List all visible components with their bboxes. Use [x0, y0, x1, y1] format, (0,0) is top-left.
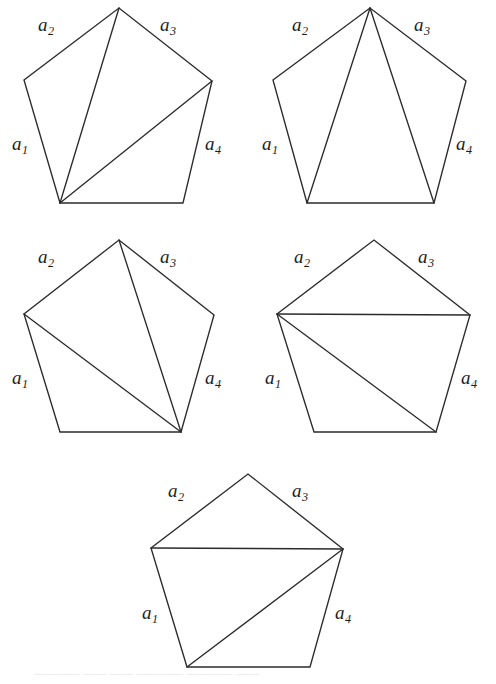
side-label-base: a — [205, 367, 215, 388]
side-label-base: a — [294, 246, 304, 267]
pentagon-3: a1a2a3a4 — [0, 229, 248, 458]
side-label-subscript: 2 — [302, 24, 308, 38]
side-label-subscript: 3 — [170, 24, 176, 38]
bottom-caption-text: ———— —— —— ———— ———— —— — [34, 670, 260, 679]
side-label-base: a — [262, 133, 272, 154]
side-label-subscript: 3 — [424, 24, 430, 38]
diagonal-1-top-to-bottom_left — [307, 8, 370, 203]
side-label-subscript: 4 — [471, 377, 477, 391]
side-label-subscript: 1 — [22, 377, 28, 391]
side-label-base: a — [414, 14, 424, 35]
side-label-base: a — [160, 246, 170, 267]
side-label-base: a — [160, 14, 170, 35]
side-label-base: a — [142, 602, 152, 623]
side-label-subscript: 4 — [345, 612, 351, 626]
side-label-subscript: 3 — [428, 256, 434, 270]
pentagon-2-outline — [248, 0, 496, 229]
side-label-base: a — [12, 367, 22, 388]
side-label-a1: a1 — [262, 134, 278, 153]
side-label-a1: a1 — [142, 603, 158, 622]
side-label-a2: a2 — [168, 481, 184, 500]
side-label-subscript: 1 — [275, 377, 281, 391]
side-label-a2: a2 — [38, 15, 54, 34]
side-label-base: a — [292, 14, 302, 35]
side-label-a4: a4 — [205, 134, 221, 153]
pentagon-4: a1a2a3a4 — [248, 229, 496, 458]
side-label-a3: a3 — [160, 247, 176, 266]
side-label-a4: a4 — [335, 603, 351, 622]
pentagon-5-outline — [124, 455, 372, 684]
side-label-subscript: 3 — [302, 490, 308, 504]
side-label-a4: a4 — [456, 134, 472, 153]
diagonal-2-bottom_right-to-left — [24, 314, 181, 432]
side-label-a4: a4 — [205, 368, 221, 387]
side-label-base: a — [335, 602, 345, 623]
side-label-a2: a2 — [294, 247, 310, 266]
side-label-a2: a2 — [292, 15, 308, 34]
side-label-subscript: 1 — [22, 143, 28, 157]
side-label-a1: a1 — [12, 368, 28, 387]
pentagon-4-outline — [248, 229, 496, 458]
side-label-subscript: 1 — [272, 143, 278, 157]
side-label-base: a — [38, 14, 48, 35]
side-label-a2: a2 — [38, 247, 54, 266]
side-label-subscript: 1 — [152, 612, 158, 626]
side-label-subscript: 2 — [48, 24, 54, 38]
side-label-base: a — [38, 246, 48, 267]
side-label-subscript: 2 — [304, 256, 310, 270]
pentagon-5: a1a2a3a4 — [124, 455, 372, 684]
side-label-base: a — [205, 133, 215, 154]
side-label-a3: a3 — [292, 481, 308, 500]
side-label-base: a — [168, 480, 178, 501]
side-label-subscript: 2 — [178, 490, 184, 504]
side-label-subscript: 2 — [48, 256, 54, 270]
side-label-a4: a4 — [461, 368, 477, 387]
side-label-base: a — [461, 367, 471, 388]
pentagon-2: a1a2a3a4 — [248, 0, 496, 229]
pentagon-1: a1a2a3a4 — [0, 0, 248, 229]
side-label-a1: a1 — [265, 368, 281, 387]
side-label-base: a — [292, 480, 302, 501]
side-label-base: a — [265, 367, 275, 388]
side-label-subscript: 3 — [170, 256, 176, 270]
diagonal-1-bottom_left-to-top — [60, 8, 119, 203]
side-label-a3: a3 — [414, 15, 430, 34]
bottom-caption-strip: ———— —— —— ———— ———— —— — [0, 670, 496, 684]
diagonal-2-right-to-bottom_left — [187, 549, 343, 667]
diagonal-1-left-to-right — [151, 548, 343, 549]
side-label-a1: a1 — [12, 134, 28, 153]
side-label-subscript: 4 — [215, 377, 221, 391]
side-label-a3: a3 — [418, 247, 434, 266]
side-label-base: a — [418, 246, 428, 267]
side-label-subscript: 4 — [466, 143, 472, 157]
diagonal-1-left-to-right — [277, 314, 470, 315]
diagonal-2-left-to-bottom_right — [277, 314, 436, 432]
side-label-base: a — [456, 133, 466, 154]
side-label-base: a — [12, 133, 22, 154]
side-label-a3: a3 — [160, 15, 176, 34]
side-label-subscript: 4 — [215, 143, 221, 157]
diagonal-2-bottom_left-to-right — [60, 81, 212, 203]
pentagon-triangulations-figure: a1a2a3a4a1a2a3a4a1a2a3a4a1a2a3a4a1a2a3a4 — [0, 0, 496, 684]
